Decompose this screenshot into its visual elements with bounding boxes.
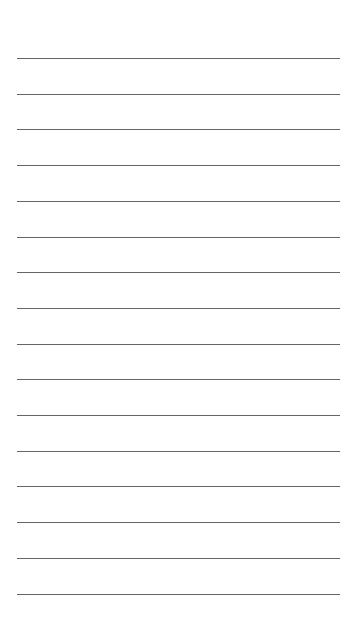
ruled-line [17, 129, 340, 130]
ruled-line [17, 272, 340, 273]
ruled-line [17, 58, 340, 59]
lined-paper-sheet [0, 0, 358, 630]
ruled-line [17, 237, 340, 238]
ruled-line [17, 522, 340, 523]
ruled-line [17, 558, 340, 559]
ruled-line [17, 94, 340, 95]
ruled-line [17, 451, 340, 452]
ruled-line [17, 201, 340, 202]
ruled-line [17, 379, 340, 380]
ruled-line [17, 308, 340, 309]
ruled-line [17, 594, 340, 595]
ruled-line [17, 344, 340, 345]
ruled-line [17, 486, 340, 487]
ruled-line [17, 165, 340, 166]
ruled-line [17, 415, 340, 416]
